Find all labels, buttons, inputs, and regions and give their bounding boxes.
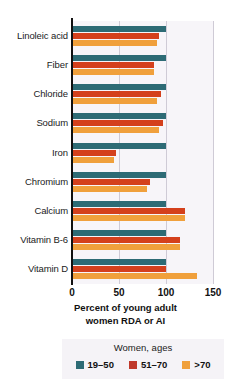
bar bbox=[72, 230, 166, 236]
x-tick-label: 100 bbox=[158, 287, 175, 298]
y-axis-label: Linoleic acid bbox=[0, 30, 68, 41]
legend-item-label: 19–50 bbox=[88, 359, 114, 370]
y-axis-label: Iron bbox=[0, 147, 68, 158]
y-axis-label: Sodium bbox=[0, 117, 68, 128]
bar-group bbox=[72, 143, 213, 163]
chart-figure: Linoleic acidFiberChlorideSodiumIronChro… bbox=[0, 0, 233, 384]
legend: Women, ages 19–5051–70>70 bbox=[62, 339, 224, 379]
bar bbox=[72, 84, 166, 90]
legend-item[interactable]: 51–70 bbox=[129, 359, 167, 370]
bar bbox=[72, 113, 166, 119]
bar bbox=[72, 172, 166, 178]
legend-item-label: >70 bbox=[194, 359, 210, 370]
bar-group bbox=[72, 26, 213, 46]
bar-group bbox=[72, 84, 213, 104]
y-axis-label: Vitamin B-6 bbox=[0, 234, 68, 245]
bar-group bbox=[72, 230, 213, 250]
bar bbox=[72, 244, 180, 250]
bar bbox=[72, 143, 166, 149]
bar bbox=[72, 157, 114, 163]
bar bbox=[72, 40, 157, 46]
legend-title: Women, ages bbox=[62, 342, 224, 353]
bar-group bbox=[72, 113, 213, 133]
bar bbox=[72, 98, 157, 104]
x-tick-label: 150 bbox=[205, 287, 222, 298]
bar bbox=[72, 150, 116, 156]
y-axis-label: Chromium bbox=[0, 176, 68, 187]
x-axis-title-line1: Percent of young adult bbox=[18, 302, 233, 315]
legend-items: 19–5051–70>70 bbox=[62, 359, 224, 370]
legend-item-label: 51–70 bbox=[141, 359, 167, 370]
plot-area bbox=[72, 21, 213, 284]
bar bbox=[72, 186, 147, 192]
y-axis-line bbox=[71, 18, 73, 285]
legend-item[interactable]: >70 bbox=[182, 359, 210, 370]
bar-group bbox=[72, 172, 213, 192]
bar bbox=[72, 273, 197, 279]
bar bbox=[72, 26, 166, 32]
bar-group bbox=[72, 259, 213, 279]
y-axis-label: Chloride bbox=[0, 88, 68, 99]
bar bbox=[72, 120, 163, 126]
bar bbox=[72, 201, 166, 207]
x-axis-title-line2: women RDA or AI bbox=[18, 315, 233, 328]
y-axis-label: Calcium bbox=[0, 205, 68, 216]
bar bbox=[72, 91, 161, 97]
legend-swatch-icon bbox=[129, 361, 137, 369]
bar bbox=[72, 237, 180, 243]
bar bbox=[72, 215, 185, 221]
bar-group bbox=[72, 55, 213, 75]
bar bbox=[72, 33, 159, 39]
y-axis-label: Vitamin D bbox=[0, 263, 68, 274]
bar bbox=[72, 266, 166, 272]
bar bbox=[72, 208, 185, 214]
legend-swatch-icon bbox=[76, 361, 84, 369]
y-axis-label: Fiber bbox=[0, 59, 68, 70]
x-axis-title: Percent of young adult women RDA or AI bbox=[0, 302, 233, 327]
bar-group bbox=[72, 201, 213, 221]
bar bbox=[72, 69, 154, 75]
legend-swatch-icon bbox=[182, 361, 190, 369]
x-tick-label: 0 bbox=[69, 287, 75, 298]
bar bbox=[72, 62, 154, 68]
bar bbox=[72, 179, 150, 185]
legend-item[interactable]: 19–50 bbox=[76, 359, 114, 370]
gridline-150 bbox=[213, 21, 214, 284]
bar bbox=[72, 55, 166, 61]
bar bbox=[72, 127, 159, 133]
x-tick-label: 50 bbox=[113, 287, 124, 298]
bar bbox=[72, 259, 166, 265]
